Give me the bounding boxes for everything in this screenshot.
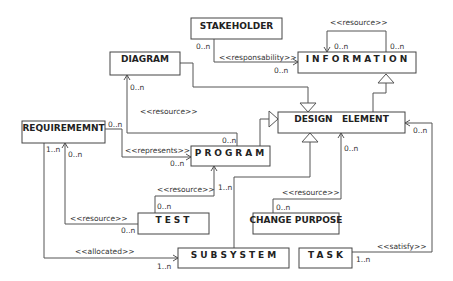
label-information-resource: <<resource>> — [330, 18, 388, 27]
mult-requirement-represents: 0..n — [108, 120, 123, 129]
connector-change-purpose-design-element — [273, 133, 341, 213]
generalization-subsystem-design-element — [302, 133, 318, 142]
generalization-design-element-information — [378, 74, 394, 83]
mult-program-represents: 0..n — [170, 159, 185, 168]
mult-task-satisfy: 1..n — [356, 255, 371, 264]
label-satisfy: <<satisfy>> — [377, 242, 427, 251]
connector-task-design-element — [352, 123, 432, 252]
class-information[interactable]: INFORMATION — [298, 52, 416, 73]
mult-design-element-satisfy: 0..n — [413, 126, 428, 135]
class-program[interactable]: PROGRAM — [191, 146, 270, 166]
connector-design-element-information — [373, 83, 386, 112]
label-responsability: <<responsability>> — [219, 53, 297, 62]
class-requirement[interactable]: REQUIREMEMNT — [22, 121, 105, 143]
class-stakeholder[interactable]: STAKEHOLDER — [191, 18, 282, 39]
mult-information-self-b: 0..n — [390, 42, 405, 51]
class-subsystem-name: SUBSYSTEM — [191, 250, 279, 260]
label-change-purpose-resource: <<resource>> — [282, 188, 340, 197]
label-test-requirement-resource: <<resource>> — [70, 214, 128, 223]
label-program-diagram-resource: <<resource>> — [140, 107, 198, 116]
class-information-name: INFORMATION — [306, 54, 411, 64]
mult-diagram: 0..n — [130, 83, 145, 92]
mult-information-self-a: 0..n — [334, 42, 349, 51]
class-diagram[interactable]: DIAGRAM — [110, 52, 180, 75]
mult-test-program: 0..n — [157, 202, 172, 211]
class-requirement-name: REQUIREMEMNT — [22, 123, 105, 133]
generalization-program-design-element — [269, 111, 278, 127]
class-test[interactable]: TEST — [138, 213, 209, 234]
class-task-name: TASK — [308, 250, 346, 260]
class-subsystem[interactable]: SUBSYSTEM — [178, 248, 289, 268]
class-design-element[interactable]: DESIGN ELEMENT — [278, 112, 405, 133]
uml-class-diagram: <<resource>> 0..n 0..n 0..n <<responsabi… — [0, 0, 453, 281]
class-change-purpose-name: CHANGE PURPOSE — [249, 215, 342, 225]
mult-requirement-allocated: 1..n — [46, 145, 61, 154]
mult-test-requirement: 0..n — [121, 226, 136, 235]
class-task[interactable]: TASK — [299, 248, 352, 268]
connector-requirement-subsystem — [44, 143, 178, 258]
class-diagram-name: DIAGRAM — [121, 54, 169, 64]
label-allocated: <<allocated>> — [75, 247, 135, 256]
mult-requirement-test: 0..n — [68, 150, 83, 159]
class-test-name: TEST — [156, 215, 193, 225]
generalization-diagram-design-element — [300, 103, 316, 112]
label-represents: <<represents>> — [125, 146, 190, 155]
mult-stakeholder-dst: 0..n — [274, 66, 289, 75]
label-test-program-resource: <<resource>> — [157, 185, 215, 194]
class-stakeholder-name: STAKEHOLDER — [200, 21, 274, 31]
mult-change-purpose: 0..n — [276, 203, 291, 212]
mult-design-element-change: 0..n — [344, 144, 359, 153]
mult-stakeholder-src: 0..n — [196, 42, 211, 51]
class-change-purpose[interactable]: CHANGE PURPOSE — [249, 213, 342, 234]
mult-program-test: 1..n — [218, 183, 233, 192]
class-design-element-name: DESIGN ELEMENT — [294, 114, 389, 124]
connector-program-design-element — [260, 119, 269, 146]
connector-diagram-design-element — [180, 63, 308, 104]
mult-subsystem-allocated: 1..n — [157, 262, 172, 271]
mult-program-diagram-src: 0..n — [222, 136, 237, 145]
class-program-name: PROGRAM — [195, 148, 267, 158]
